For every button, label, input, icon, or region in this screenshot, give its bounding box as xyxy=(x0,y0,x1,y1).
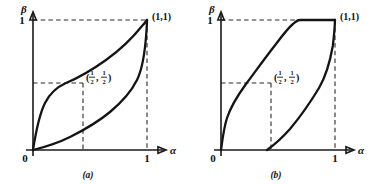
midpoint-frac2-numerator-b: 1 xyxy=(290,69,293,76)
midpoint-point-label-b: ( 1 2 , 1 2 ) xyxy=(274,69,299,85)
figure-container: β α 1 1 0 (1,1) ( 1 2 , 1 2 ) (a) xyxy=(0,0,376,184)
midpoint-comma-b: , xyxy=(284,72,287,83)
midpoint-frac1-numerator-a: 1 xyxy=(90,69,93,76)
y-tick-label-one-a: 1 xyxy=(19,14,25,26)
midpoint-frac1-denominator-b: 2 xyxy=(278,78,281,85)
origin-label-b: 0 xyxy=(210,152,216,164)
midpoint-open-paren-a: ( xyxy=(86,72,90,84)
midpoint-frac2-denominator-a: 2 xyxy=(102,78,105,85)
midpoint-comma-a: , xyxy=(96,72,99,83)
lower-curve-b xyxy=(267,20,335,150)
corner-point-label-b: (1,1) xyxy=(340,11,359,23)
chart-panel-a: β α 1 1 0 (1,1) ( 1 2 , 1 2 ) (a) xyxy=(0,0,188,184)
midpoint-frac1-numerator-b: 1 xyxy=(278,69,281,76)
upper-curve-a xyxy=(33,20,147,150)
midpoint-point-label-a: ( 1 2 , 1 2 ) xyxy=(86,69,111,85)
midpoint-frac2-denominator-b: 2 xyxy=(290,78,293,85)
x-tick-label-one-a: 1 xyxy=(144,152,150,164)
y-tick-label-one-b: 1 xyxy=(207,14,213,26)
midpoint-frac2-numerator-a: 1 xyxy=(102,69,105,76)
midpoint-close-paren-a: ) xyxy=(108,72,111,84)
corner-point-label-a: (1,1) xyxy=(152,11,171,23)
origin-label-a: 0 xyxy=(22,152,28,164)
x-axis-label-a: α xyxy=(170,144,177,156)
panel-caption-b: (b) xyxy=(270,170,281,181)
midpoint-open-paren-b: ( xyxy=(274,72,278,84)
x-axis-label-b: α xyxy=(358,144,365,156)
chart-panel-b: β α 1 1 0 (1,1) ( 1 2 , 1 2 ) (b) xyxy=(188,0,376,184)
panel-caption-a: (a) xyxy=(82,170,93,181)
midpoint-close-paren-b: ) xyxy=(296,72,299,84)
midpoint-frac1-denominator-a: 2 xyxy=(90,78,93,85)
upper-curve-b xyxy=(221,20,335,150)
x-tick-label-one-b: 1 xyxy=(332,152,338,164)
